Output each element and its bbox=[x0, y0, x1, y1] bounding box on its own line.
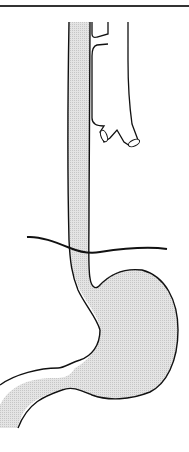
diaphragm-line bbox=[27, 237, 167, 253]
diagram-frame: esophagus trachea diaphragm stomach duod… bbox=[0, 0, 189, 452]
anatomy-illustration bbox=[0, 0, 189, 452]
left-bronchus-stub bbox=[99, 129, 109, 142]
trachea-bronchus-left bbox=[92, 22, 138, 146]
right-bronchus-stub bbox=[127, 138, 140, 149]
trachea-upper-left bbox=[92, 22, 108, 37]
